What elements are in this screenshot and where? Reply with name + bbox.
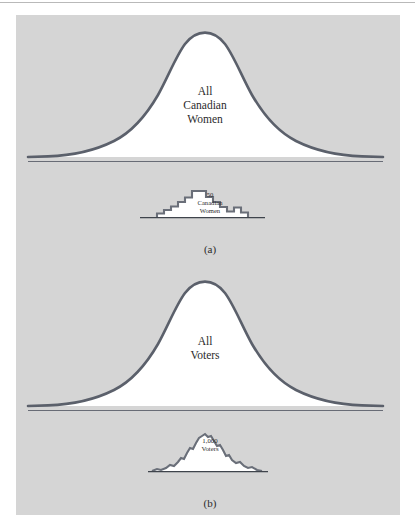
figure-root: All Canadian Women 50 Canadian Women (a)… [0, 0, 415, 530]
panel-a-sample-label: 50 Canadian Women [175, 191, 245, 214]
panel-b-caption: (b) [175, 497, 245, 510]
panel-b-population-label: All Voters [150, 334, 260, 362]
panel-a-population-label: All Canadian Women [150, 84, 260, 126]
panel-a-caption: (a) [175, 243, 245, 256]
panel-b-sample-label: 1,000 Voters [178, 437, 242, 453]
